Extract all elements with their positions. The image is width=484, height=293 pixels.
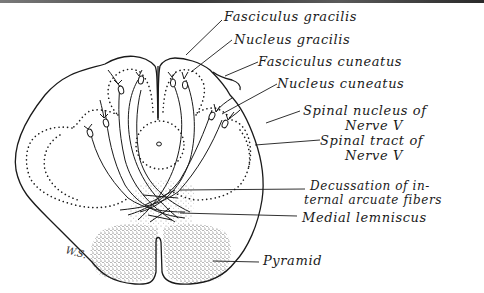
- label-decussation-line2: ternal arcuate fibers: [304, 193, 442, 207]
- artist-signature: W.S.: [64, 244, 88, 260]
- nucleus-gracilis-left-boundary: [108, 69, 153, 115]
- label-fasciculus-cuneatus: Fasciculus cuneatus: [257, 54, 402, 69]
- label-nucleus-cuneatus: Nucleus cuneatus: [276, 76, 404, 91]
- spinal-nucleus-v-left: [26, 127, 128, 207]
- pyramid-left: [90, 224, 158, 282]
- nucleus-cuneatus-left-boundary: [72, 110, 118, 128]
- medulla-diagram: Fasciculus gracilis Nucleus gracilis Fas…: [0, 0, 484, 293]
- label-fasciculus-gracilis: Fasciculus gracilis: [223, 9, 357, 24]
- label-spinal-tract-v-line2: Nerve V: [344, 148, 404, 163]
- label-pyramid: Pyramid: [262, 253, 322, 268]
- label-spinal-tract-v-line1: Spinal tract of: [320, 133, 425, 148]
- central-gray-boundary: [136, 121, 184, 169]
- label-nucleus-gracilis: Nucleus gracilis: [233, 32, 350, 47]
- right-dorsal-notch: [213, 72, 240, 90]
- label-spinal-nucleus-v-line1: Spinal nucleus of: [303, 103, 428, 118]
- label-medial-lemniscus: Medial lemniscus: [301, 210, 427, 225]
- diagram-svg: Fasciculus gracilis Nucleus gracilis Fas…: [0, 0, 484, 293]
- spinal-tract-v-left: [44, 135, 78, 200]
- spinal-tract-v-right: [240, 130, 250, 170]
- label-spinal-nucleus-v-line2: Nerve V: [344, 118, 404, 133]
- central-canal: [157, 142, 162, 146]
- label-decussation-line1: Decussation of in-: [309, 179, 430, 193]
